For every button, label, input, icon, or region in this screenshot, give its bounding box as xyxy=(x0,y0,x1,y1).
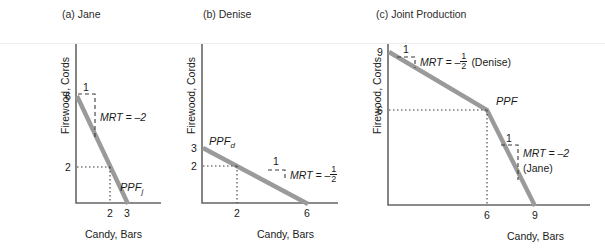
panel-b-mrt-denominator: 2 xyxy=(330,175,337,184)
panel-a-ytick-2: 2 xyxy=(63,162,73,173)
panel-a-xtick-2: 2 xyxy=(105,208,115,219)
panel-b-plot xyxy=(195,0,365,249)
panel-c-lower-run-label: 1 xyxy=(506,133,512,144)
panel-b-mrt-text: MRT = – xyxy=(290,169,330,181)
panel-c-upper-run-label: 1 xyxy=(403,44,409,55)
panel-b-ytick-2: 2 xyxy=(189,161,199,172)
panel-b-ppf-subscript: d xyxy=(230,141,234,150)
slope-triangle-denise xyxy=(268,170,285,180)
panel-c-upper-mrt-fraction: 12 xyxy=(460,52,467,72)
panel-a-ppf-subscript: j xyxy=(141,187,143,196)
panel-c-lower-mrt-owner: (Jane) xyxy=(523,163,553,174)
panel-a-ppf-label: PPFj xyxy=(120,182,143,196)
panel-b-ppf-label: PPFd xyxy=(209,136,235,150)
panel-denise: (b) Denise Firewood, Cords Candy, Bars 3… xyxy=(195,0,365,249)
panel-c-lower-mrt-text: MRT = –2 xyxy=(523,147,569,159)
panel-a-run-label: 1 xyxy=(83,82,89,93)
panel-c-xtick-6: 6 xyxy=(482,210,492,221)
panel-b-ppf-text: PPF xyxy=(209,135,230,147)
ppf-joint-curve xyxy=(389,52,535,206)
panel-c-upper-mrt-denominator: 2 xyxy=(460,62,467,71)
panel-c-upper-mrt-text: MRT = – xyxy=(420,56,460,68)
panel-c-lower-mrt-label: MRT = –2 xyxy=(523,148,569,159)
panel-b-x-axis-title: Candy, Bars xyxy=(257,228,314,240)
panel-b-y-axis-title: Firewood, Cords xyxy=(185,57,197,134)
panel-b-xtick-6: 6 xyxy=(302,208,312,219)
panel-b-run-label: 1 xyxy=(273,156,279,167)
panel-c-ytick-9: 9 xyxy=(375,47,385,58)
panel-c-ppf-label: PPF xyxy=(496,96,517,107)
panel-a-ppf-text: PPF xyxy=(120,181,141,193)
panel-c-ytick-6: 6 xyxy=(375,105,385,116)
panel-a-plot xyxy=(0,0,195,249)
panel-c-upper-mrt-label: MRT = –12(Denise) xyxy=(420,53,511,73)
panel-c-upper-mrt-owner: (Denise) xyxy=(471,56,511,68)
panel-a-mrt-text: MRT = –2 xyxy=(100,111,146,123)
panel-b-mrt-label: MRT = –12 xyxy=(290,166,337,186)
panel-a-ytick-6: 6 xyxy=(63,91,73,102)
panel-c-y-axis-title: Firewood, Cords xyxy=(371,57,383,134)
panel-a-mrt-label: MRT = –2 xyxy=(100,112,146,123)
panel-a-xtick-3: 3 xyxy=(122,208,132,219)
panel-joint-production: (c) Joint Production Firewood, Cords Can… xyxy=(365,0,605,249)
panel-a-x-axis-title: Candy, Bars xyxy=(85,228,142,240)
panel-b-mrt-fraction: 12 xyxy=(330,165,337,185)
panel-c-x-axis-title: Candy, Bars xyxy=(507,230,564,242)
panel-jane: (a) Jane Firewood, Cords Candy, Bars 6 2… xyxy=(0,0,195,249)
panel-b-xtick-2: 2 xyxy=(232,208,242,219)
panel-b-ytick-3: 3 xyxy=(189,143,199,154)
panel-c-xtick-9: 9 xyxy=(530,210,540,221)
